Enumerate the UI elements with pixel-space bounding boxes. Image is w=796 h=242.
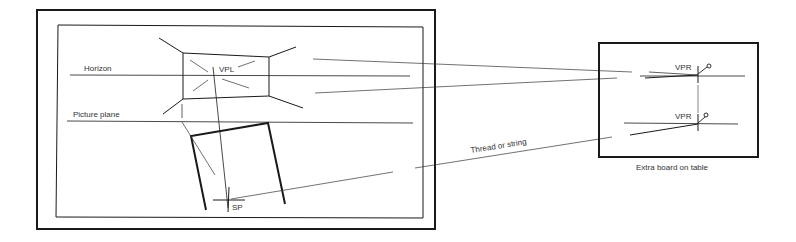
thread-label: Thread or string [470, 137, 527, 155]
sp-label: SP [232, 203, 243, 212]
horizon-line [70, 75, 410, 76]
picture-plane-label: Picture plane [73, 110, 120, 119]
horizon-label: Horizon [84, 64, 112, 73]
vpr-upper-label: VPR [675, 63, 692, 72]
main-drawing-board [37, 10, 435, 229]
extra-board-label: Extra board on table [636, 163, 709, 172]
picture-plane-line [67, 121, 413, 123]
threads [231, 59, 632, 199]
perspective-diagram: Horizon Picture plane VPL SP Thread [0, 0, 796, 242]
vpr-lower-label: VPR [675, 112, 692, 121]
extra-board [599, 43, 758, 157]
plan-projection-line [182, 122, 215, 175]
vpl-vertical [213, 67, 228, 208]
vpr-upper [640, 64, 745, 83]
plan-object [191, 123, 285, 210]
vpl-label: VPL [219, 65, 235, 74]
